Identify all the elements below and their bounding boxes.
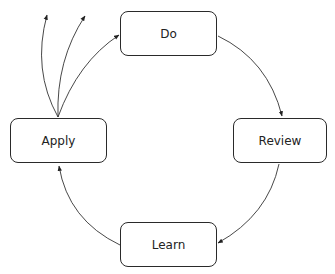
edge-review-learn — [218, 164, 279, 243]
edge-apply-outward-1 — [42, 15, 58, 117]
node-do: Do — [120, 11, 217, 56]
node-do-label: Do — [160, 27, 177, 41]
edge-apply-do — [58, 35, 119, 117]
node-review: Review — [233, 118, 327, 163]
edge-apply-outward-2 — [58, 16, 85, 117]
node-apply-label: Apply — [42, 134, 76, 148]
node-review-label: Review — [259, 134, 302, 148]
node-learn: Learn — [120, 222, 217, 267]
node-apply: Apply — [10, 118, 107, 163]
edge-do-review — [218, 36, 282, 116]
edge-learn-apply — [59, 166, 120, 245]
node-learn-label: Learn — [152, 238, 186, 252]
